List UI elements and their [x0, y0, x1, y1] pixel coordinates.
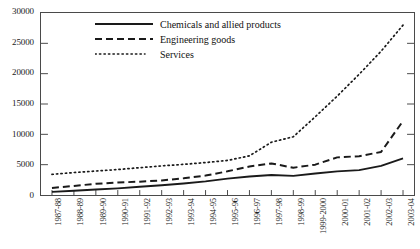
legend-label-chemicals: Chemicals and allied products	[160, 19, 281, 30]
y-tick-label: 15000	[0, 99, 34, 108]
x-tick-label: 1996-97	[253, 198, 262, 226]
x-tick-label: 1993-94	[187, 198, 196, 226]
legend-item-engineering: Engineering goods	[95, 32, 335, 46]
x-tick-label: 1991-92	[143, 198, 152, 226]
legend-line-solid-icon	[95, 19, 153, 29]
y-tick-label: 25000	[0, 38, 34, 47]
x-tick-label: 1989-90	[99, 198, 108, 226]
y-tick-label: 5000	[0, 160, 34, 169]
legend-line-dotted-icon	[95, 49, 153, 59]
legend-label-engineering: Engineering goods	[160, 34, 235, 45]
chart-legend: Chemicals and allied products Engineerin…	[95, 17, 335, 62]
x-tick-label: 2003-04	[407, 198, 416, 226]
x-tick-label: 1999-2000	[319, 198, 328, 234]
legend-line-dashed-icon	[95, 34, 153, 44]
line-chart: 050001000015000200002500030000 1987-8819…	[0, 0, 420, 249]
legend-item-services: Services	[95, 47, 335, 61]
x-tick-label: 1994-95	[209, 198, 218, 226]
y-tick-label: 10000	[0, 130, 34, 139]
x-axis: 1987-881988-891989-901990-911991-921992-…	[40, 198, 415, 249]
x-tick-label: 1990-91	[121, 198, 130, 226]
series-line-0	[52, 158, 403, 192]
y-tick-label: 0	[0, 191, 34, 200]
x-tick-label: 1992-93	[165, 198, 174, 226]
y-tick-label: 30000	[0, 7, 34, 16]
x-tick-label: 1997-98	[275, 198, 284, 226]
x-tick-label: 1998-99	[297, 198, 306, 226]
x-tick-label: 2001-02	[363, 198, 372, 226]
y-axis: 050001000015000200002500030000	[0, 0, 34, 249]
x-tick-label: 1988-89	[76, 198, 85, 226]
x-tick-label: 1995-96	[231, 198, 240, 226]
legend-label-services: Services	[160, 49, 194, 60]
legend-item-chemicals: Chemicals and allied products	[95, 17, 335, 31]
x-tick-label: 2000-01	[341, 198, 350, 226]
x-tick-label: 2002-03	[385, 198, 394, 226]
y-tick-label: 20000	[0, 68, 34, 77]
x-tick-label: 1987-88	[54, 198, 63, 226]
